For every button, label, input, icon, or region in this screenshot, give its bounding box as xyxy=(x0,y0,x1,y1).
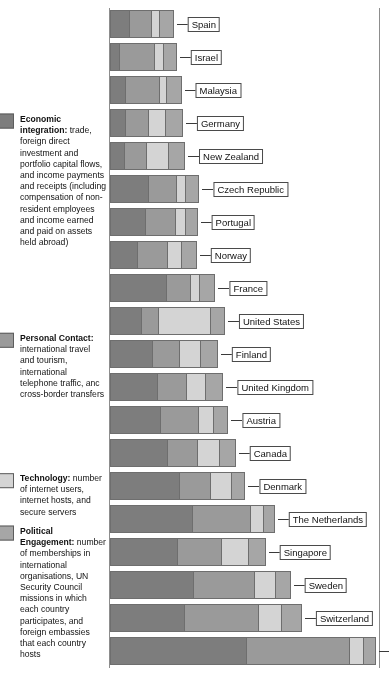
bar-segment-political-engagement xyxy=(213,407,228,435)
category-label-text: United Kingdom xyxy=(237,380,313,395)
bar-segment-personal-contact xyxy=(184,605,259,633)
figure-rotated-180: IrelandSwitzerlandSwedenSingaporeThe Net… xyxy=(0,0,389,676)
bar-segment-political-engagement xyxy=(205,374,223,402)
category-label-text: Czech Republic xyxy=(213,182,288,197)
bar-segment-economic-integration xyxy=(110,539,178,567)
label-leader-line xyxy=(248,486,259,487)
bar-segment-technology xyxy=(146,143,169,171)
bar-segment-technology xyxy=(158,308,211,336)
category-label: Norway xyxy=(200,249,379,263)
bar-segment-political-engagement xyxy=(281,605,302,633)
bar-segment-economic-integration xyxy=(110,44,120,72)
label-leader-line xyxy=(221,354,232,355)
bar-segment-economic-integration xyxy=(110,275,167,303)
category-label-text: Germany xyxy=(197,116,244,131)
label-leader-line xyxy=(202,189,213,190)
category-label: Canada xyxy=(239,447,379,461)
category-label-text: Singapore xyxy=(280,545,331,560)
bar-segment-political-engagement xyxy=(185,176,199,204)
legend-item-political-engagement: Political Engagement: number of membersh… xyxy=(0,526,106,660)
legend-label-personal-contact: Personal Contact: international travel a… xyxy=(20,333,106,400)
globalization-index-chart: IrelandSwitzerlandSwedenSingaporeThe Net… xyxy=(0,0,389,676)
bar-segment-political-engagement xyxy=(181,242,197,270)
label-leader-line xyxy=(201,222,212,223)
bar-segment-personal-contact xyxy=(124,143,147,171)
category-label-text: The Netherlands xyxy=(289,512,367,527)
bar-segment-technology xyxy=(254,572,276,600)
legend-swatch-economic-integration xyxy=(0,114,14,129)
category-label: United States xyxy=(228,315,379,329)
bar-segment-political-engagement xyxy=(166,77,182,105)
plot-area: IrelandSwitzerlandSwedenSingaporeThe Net… xyxy=(109,8,380,668)
bar-segment-personal-contact xyxy=(166,275,191,303)
legend-swatch-technology xyxy=(0,473,14,488)
bar-row xyxy=(110,638,379,666)
legend-swatch-political-engagement xyxy=(0,526,14,541)
category-label-text: France xyxy=(229,281,267,296)
bar-segment-economic-integration xyxy=(110,209,146,237)
bar-segment-technology xyxy=(151,11,160,39)
bar-segment-economic-integration xyxy=(110,11,130,39)
bar-segment-personal-contact xyxy=(129,11,152,39)
bar-segment-technology xyxy=(250,506,264,534)
legend-label-technology: Technology: number of internet users, in… xyxy=(20,473,106,518)
bar-segment-political-engagement xyxy=(199,275,215,303)
bar-segment-technology xyxy=(190,275,200,303)
bar-segment-economic-integration xyxy=(110,308,142,336)
legend-item-personal-contact: Personal Contact: international travel a… xyxy=(0,333,106,400)
bar-segment-economic-integration xyxy=(110,638,247,666)
bar-segment-economic-integration xyxy=(110,407,161,435)
bar-segment-political-engagement xyxy=(168,143,185,171)
label-leader-line xyxy=(305,618,316,619)
category-label: Finland xyxy=(221,348,379,362)
bar-segment-political-engagement xyxy=(231,473,245,501)
bar-segment-personal-contact xyxy=(177,539,222,567)
category-label-text: Finland xyxy=(232,347,271,362)
category-label-text: Switzerland xyxy=(316,611,373,626)
bar-segment-economic-integration xyxy=(110,242,138,270)
category-label: The Netherlands xyxy=(278,513,379,527)
label-leader-line xyxy=(228,321,239,322)
bar-segment-political-engagement xyxy=(159,11,174,39)
category-label-text: Sweden xyxy=(305,578,347,593)
category-label: Austria xyxy=(231,414,379,428)
label-leader-line xyxy=(379,651,389,652)
legend: Political Engagement: number of membersh… xyxy=(2,8,106,668)
legend-label-economic-integration: Economic integration: trade, foreign dir… xyxy=(20,114,106,248)
bar-segment-technology xyxy=(198,407,214,435)
bar-segment-personal-contact xyxy=(141,308,159,336)
category-label: New Zealand xyxy=(188,150,379,164)
bar-segment-economic-integration xyxy=(110,506,193,534)
category-label-text: United States xyxy=(239,314,304,329)
bar-segment-economic-integration xyxy=(110,440,168,468)
category-label: Portugal xyxy=(201,216,379,230)
label-leader-line xyxy=(177,24,188,25)
category-label: Singapore xyxy=(269,546,379,560)
category-label-text: Canada xyxy=(250,446,291,461)
bar-segment-personal-contact xyxy=(246,638,350,666)
label-leader-line xyxy=(188,156,199,157)
category-label-text: Denmark xyxy=(259,479,306,494)
bar-segment-economic-integration xyxy=(110,473,180,501)
bar-segment-personal-contact xyxy=(152,341,180,369)
category-label-text: Portugal xyxy=(212,215,255,230)
bar-segment-personal-contact xyxy=(119,44,155,72)
bar-segment-political-engagement xyxy=(363,638,376,666)
label-leader-line xyxy=(185,90,196,91)
bar-segment-technology xyxy=(210,473,232,501)
bar-segment-personal-contact xyxy=(148,176,177,204)
category-label-text: Norway xyxy=(211,248,251,263)
bar-segment-technology xyxy=(159,77,167,105)
bar-segment-personal-contact xyxy=(145,209,176,237)
bar-segment-technology xyxy=(179,341,201,369)
bar-segment-personal-contact xyxy=(193,572,255,600)
bar-segment-political-engagement xyxy=(163,44,177,72)
category-label-text: Spain xyxy=(188,17,220,32)
bar-segment-political-engagement xyxy=(275,572,291,600)
bar-segment-economic-integration xyxy=(110,605,185,633)
category-label: Malaysia xyxy=(185,84,379,98)
legend-label-political-engagement: Political Engagement: number of membersh… xyxy=(20,526,106,660)
category-label: Spain xyxy=(177,18,379,32)
legend-item-economic-integration: Economic integration: trade, foreign dir… xyxy=(0,114,106,248)
bar-segment-technology xyxy=(167,242,182,270)
